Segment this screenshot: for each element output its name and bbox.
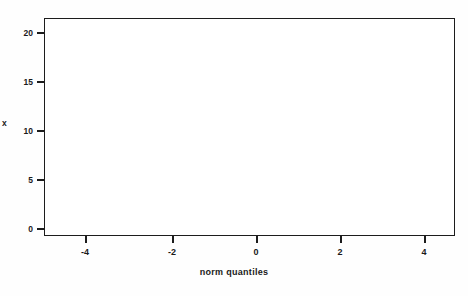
x-tick-0 — [256, 236, 258, 243]
plot-frame — [44, 18, 455, 236]
y-tick-label-15: 15 — [11, 77, 33, 87]
y-tick-10 — [37, 130, 44, 132]
x-axis-title: norm quantiles — [0, 267, 468, 277]
y-tick-15 — [37, 81, 44, 83]
x-tick-label--4: -4 — [70, 247, 100, 257]
y-axis-title: x — [2, 118, 7, 128]
x-tick-label--2: -2 — [157, 247, 187, 257]
y-tick-label-5: 5 — [11, 175, 33, 185]
x-tick-4 — [424, 236, 426, 243]
x-tick-label-4: 4 — [409, 247, 439, 257]
qq-plot-figure: 70446o 51498ooo 20 15 10 5 0 x -4 -2 0 2… — [0, 0, 468, 296]
x-tick-label-2: 2 — [325, 247, 355, 257]
x-tick-2 — [340, 236, 342, 243]
y-tick-20 — [37, 32, 44, 34]
y-tick-5 — [37, 179, 44, 181]
y-tick-label-20: 20 — [11, 28, 33, 38]
y-tick-0 — [37, 228, 44, 230]
y-tick-label-10: 10 — [11, 126, 33, 136]
x-tick-label-0: 0 — [241, 247, 271, 257]
y-tick-label-0: 0 — [11, 224, 33, 234]
x-tick--2 — [172, 236, 174, 243]
x-tick--4 — [85, 236, 87, 243]
